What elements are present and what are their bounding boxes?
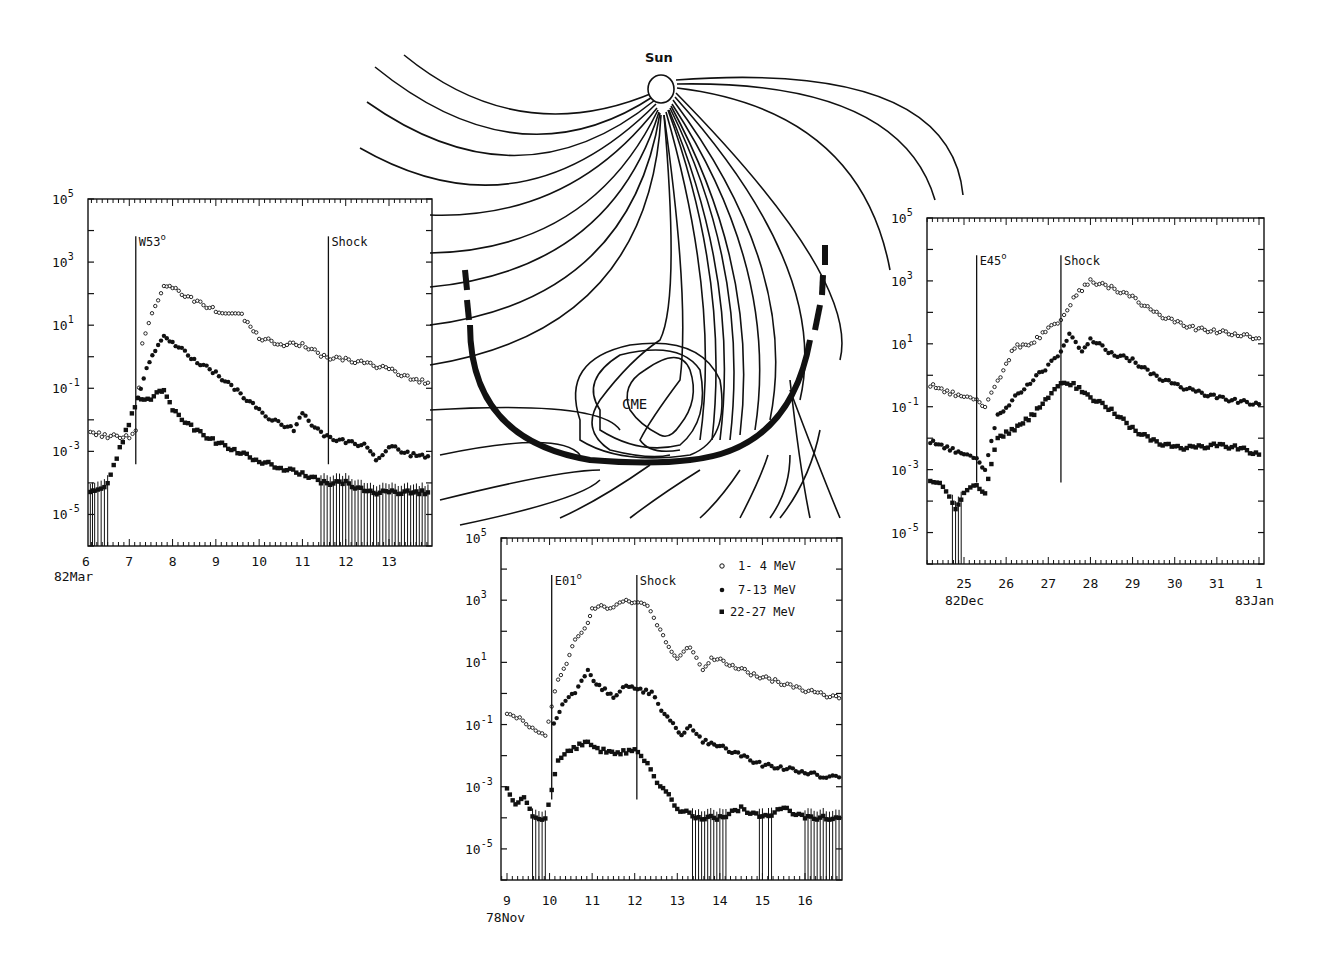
event-label: Shock [1064, 254, 1101, 268]
plot-frame [927, 218, 1264, 564]
x-tick-label: 12 [338, 554, 354, 569]
filled-square-icon [720, 610, 725, 615]
x-tick-label: 11 [295, 554, 311, 569]
chart-left: 10510310110-110-310-5 678910111213 W53oS… [52, 188, 432, 584]
data-points [505, 598, 841, 880]
chart-bottom: 10510310110-110-310-5 910111213141516 E0… [465, 527, 842, 925]
x-tick-label: 15 [755, 893, 771, 908]
x-tick-label: 31 [1209, 576, 1225, 591]
x-tick-label: 9 [212, 554, 220, 569]
y-tick-label: 101 [52, 314, 74, 333]
data-points [928, 278, 1261, 564]
y-tick-label: 105 [465, 527, 487, 546]
y-tick-label: 10-5 [465, 838, 493, 857]
x-tick-label: 13 [381, 554, 397, 569]
x-axis-label: 82Mar [54, 569, 93, 584]
x-tick-label: 1 [1255, 576, 1263, 591]
legend-label: 22-27 MeV [730, 605, 795, 619]
x-tick-label: 28 [1083, 576, 1099, 591]
event-label: W53o [139, 232, 166, 249]
x-tick-label: 26 [998, 576, 1014, 591]
event-label: Shock [640, 574, 677, 588]
legend-label: 1- 4 MeV [738, 559, 796, 573]
sun-icon [648, 75, 674, 103]
y-tick-label: 105 [52, 188, 74, 207]
x-tick-label: 13 [669, 893, 685, 908]
y-tick-label: 101 [465, 651, 487, 670]
figure-canvas: Sun CME 10510310110-110-310-5 6789101112… [0, 0, 1330, 972]
chart-right: 10510310110-110-310-5 252627282930311 E4… [891, 207, 1274, 608]
data-points [88, 284, 430, 546]
x-tick-label: 12 [627, 893, 643, 908]
x-tick-label: 8 [169, 554, 177, 569]
x-axis-left-panel: 678910111213 [82, 199, 427, 569]
open-circle-icon [720, 564, 724, 568]
x-axis-label: 78Nov [486, 910, 525, 925]
y-tick-label: 10-3 [465, 776, 493, 795]
y-tick-label: 103 [891, 270, 913, 289]
x-tick-label: 14 [712, 893, 728, 908]
x-tick-label: 25 [956, 576, 972, 591]
cme-diagram [360, 55, 963, 525]
x-tick-label: 27 [1040, 576, 1056, 591]
x-tick-label: 6 [82, 554, 90, 569]
x-tick-label: 10 [251, 554, 267, 569]
legend: 1- 4 MeV 7-13 MeV 22-27 MeV [720, 559, 796, 619]
event-label: Shock [331, 235, 368, 249]
event-markers: E01oShock [552, 571, 677, 800]
x-tick-label: 11 [584, 893, 600, 908]
event-label: E45o [980, 251, 1007, 268]
y-tick-label: 10-5 [52, 503, 80, 522]
x-axis-label-end: 83Jan [1235, 593, 1274, 608]
x-tick-label: 7 [125, 554, 133, 569]
cme-label: CME [622, 396, 647, 412]
x-tick-label: 16 [797, 893, 813, 908]
x-tick-label: 10 [542, 893, 558, 908]
filled-circle-icon [720, 588, 725, 593]
sun-label: Sun [645, 50, 673, 65]
y-tick-label: 10-3 [52, 440, 80, 459]
y-tick-label: 103 [465, 589, 487, 608]
y-tick-label: 10-1 [52, 377, 80, 396]
y-tick-label: 103 [52, 251, 74, 270]
event-markers: W53oShock [136, 232, 369, 464]
y-tick-label: 105 [891, 207, 913, 226]
y-tick-label: 10-1 [465, 714, 493, 733]
event-label: E01o [555, 571, 582, 588]
legend-label: 7-13 MeV [738, 583, 796, 597]
x-tick-label: 30 [1167, 576, 1183, 591]
y-tick-label: 10-3 [891, 459, 919, 478]
y-tick-label: 10-1 [891, 396, 919, 415]
x-tick-label: 9 [503, 893, 511, 908]
x-axis-right-panel: 252627282930311 [927, 218, 1263, 591]
y-tick-label: 10-5 [891, 522, 919, 541]
x-axis-label: 82Dec [945, 593, 984, 608]
x-tick-label: 29 [1125, 576, 1141, 591]
y-tick-label: 101 [891, 333, 913, 352]
